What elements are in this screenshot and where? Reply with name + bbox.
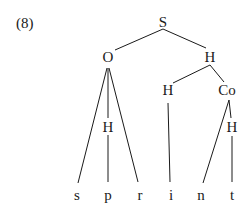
node-H-onset: H (103, 120, 114, 135)
edge-H-Co (210, 65, 224, 82)
leaf-r: r (138, 188, 143, 203)
edge-Co-H (229, 100, 231, 118)
leaf-i: i (169, 188, 173, 203)
leaf-n: n (197, 188, 205, 203)
node-H-coda: H (227, 120, 238, 135)
node-S: S (159, 15, 167, 30)
node-H-rhyme: H (205, 50, 216, 65)
edge-H-H (173, 65, 210, 83)
node-Co: Co (218, 83, 236, 98)
edge-Co-n (203, 100, 229, 183)
tree-edges (0, 0, 249, 217)
node-H-nucleus: H (163, 83, 174, 98)
leaf-t: t (230, 188, 234, 203)
edge-S-O (115, 29, 163, 50)
leaf-s: s (74, 188, 80, 203)
edge-H-i (168, 103, 170, 182)
edge-S-H (163, 29, 206, 48)
node-O: O (103, 50, 114, 65)
leaf-p: p (104, 188, 112, 203)
